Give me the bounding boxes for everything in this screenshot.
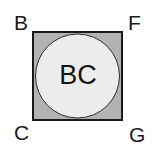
diagram-canvas: BC B F C G <box>0 0 156 151</box>
corner-label-top-right: F <box>128 12 141 33</box>
corner-label-top-left: B <box>14 12 28 33</box>
corner-label-bottom-right: G <box>129 124 145 145</box>
circle-center-label: BC <box>32 61 124 89</box>
corner-label-bottom-left: C <box>14 122 29 143</box>
